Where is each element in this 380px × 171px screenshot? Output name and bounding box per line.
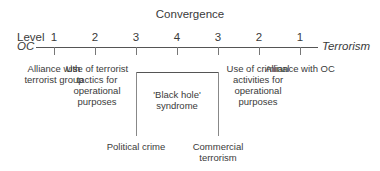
desc-alliance-oc: Alliance with OC [265, 63, 335, 74]
tick [177, 47, 178, 55]
level-3-left: 3 [126, 31, 146, 43]
level-2-right: 2 [249, 31, 269, 43]
level-3-right: 3 [208, 31, 228, 43]
level-4-center: 4 [167, 31, 187, 43]
oc-axis-label: OC [17, 40, 34, 52]
level-1-left: 1 [44, 31, 64, 43]
level-1-right: 1 [290, 31, 310, 43]
level-2-left: 2 [85, 31, 105, 43]
tick [54, 47, 55, 55]
political-crime-label: Political crime [96, 141, 176, 152]
terrorism-axis-label: Terrorism [322, 40, 370, 52]
black-hole-label: 'Black hole' syndrome [136, 89, 218, 111]
tick [95, 47, 96, 55]
tick [259, 47, 260, 55]
bracket-right-leg [218, 72, 219, 136]
diagram-title: Convergence [0, 8, 380, 20]
tick [136, 47, 137, 55]
black-hole-bracket [136, 72, 218, 73]
commercial-terrorism-label: Commercial terrorism [178, 141, 258, 163]
desc-terrorist-tactics: Use of terrorist tactics for operational… [62, 63, 132, 107]
tick [300, 47, 301, 55]
tick [218, 47, 219, 55]
